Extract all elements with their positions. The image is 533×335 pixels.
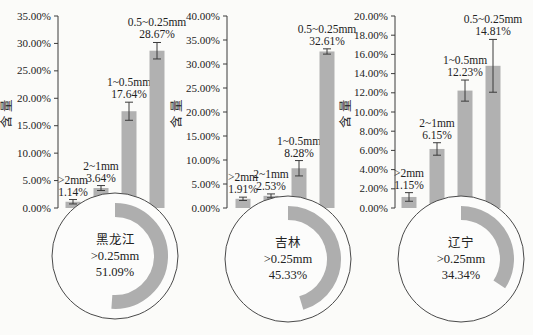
y-tick-label: 2.00% — [360, 182, 388, 194]
bar-category-label: 1~0.5mm — [277, 135, 321, 147]
y-axis-title: 含量 — [169, 96, 184, 128]
donut-region-label: 吉林 — [275, 236, 301, 250]
bar-category-label: 2~1mm — [253, 168, 289, 180]
y-tick-label: 30.00% — [186, 58, 220, 70]
bar-value-label: 3.64% — [86, 172, 116, 184]
y-tick-label: 25.00% — [17, 64, 51, 76]
bar-value-label: 1.15% — [394, 179, 424, 191]
bar-value-label: 17.64% — [111, 88, 147, 100]
bar-category-label: 2~1mm — [83, 160, 119, 172]
bar-category-label: 1~0.5mm — [107, 76, 151, 88]
chart-canvas: 35.00%30.00%25.00%20.00%15.00%10.00%5.00… — [0, 0, 533, 335]
y-axis-title: 含量 — [0, 96, 14, 128]
donut-region-label: 黑龙江 — [96, 233, 135, 247]
bar-0.5~0.25mm — [320, 51, 335, 208]
y-tick-label: 8.00% — [360, 125, 388, 137]
y-tick-label: 12.00% — [354, 86, 388, 98]
y-tick-label: 10.00% — [17, 147, 51, 159]
y-tick-label: 16.00% — [354, 48, 388, 60]
y-tick-label: 20.00% — [354, 10, 388, 22]
bar-value-label: 2.53% — [256, 180, 286, 192]
bar-value-label: 14.81% — [475, 25, 511, 37]
donut-region-label: 辽宁 — [448, 235, 474, 250]
donut-value-label: 45.33% — [269, 268, 308, 282]
y-tick-label: 20.00% — [186, 106, 220, 118]
y-axis-title: 含量 — [338, 96, 353, 128]
y-tick-label: 35.00% — [186, 34, 220, 46]
donut-category-label: >0.25mm — [91, 249, 140, 263]
y-tick-label: 14.00% — [354, 67, 388, 79]
donut-value-label: 51.09% — [96, 265, 135, 279]
bar-0.5~0.25mm — [150, 51, 165, 208]
donut-category-label: >0.25mm — [437, 252, 486, 266]
bar-value-label: 6.15% — [422, 129, 452, 141]
bar-1~0.5mm — [458, 91, 473, 208]
bar-category-label: 0.5~0.25mm — [298, 23, 357, 35]
y-tick-label: 4.00% — [360, 163, 388, 175]
y-tick-label: 15.00% — [186, 130, 220, 142]
y-tick-label: 40.00% — [186, 10, 220, 22]
y-tick-label: 20.00% — [17, 92, 51, 104]
bar-category-label: 0.5~0.25mm — [128, 16, 187, 28]
bar-category-label: >2mm — [394, 167, 424, 179]
y-tick-label: 30.00% — [17, 37, 51, 49]
y-tick-label: 0.00% — [360, 202, 388, 214]
bar-value-label: 1.91% — [228, 183, 258, 195]
donut-category-label: >0.25mm — [264, 252, 313, 266]
bar-value-label: 1.14% — [58, 186, 88, 198]
bar-value-label: 8.28% — [284, 147, 314, 159]
bar-value-label: 32.61% — [309, 35, 345, 47]
bar-category-label: 0.5~0.25mm — [464, 13, 523, 25]
bar-category-label: 1~0.5mm — [443, 54, 487, 66]
y-tick-label: 10.00% — [354, 106, 388, 118]
y-tick-label: 15.00% — [17, 119, 51, 131]
y-tick-label: 10.00% — [186, 154, 220, 166]
y-tick-label: 6.00% — [360, 144, 388, 156]
y-tick-label: 5.00% — [23, 174, 51, 186]
y-tick-label: 5.00% — [192, 178, 220, 190]
bar-value-label: 12.23% — [447, 66, 483, 78]
donut-value-label: 34.34% — [442, 268, 481, 282]
y-tick-label: 18.00% — [354, 29, 388, 41]
bar-category-label: >2mm — [58, 174, 88, 186]
y-tick-label: 0.00% — [23, 202, 51, 214]
y-tick-label: 35.00% — [17, 10, 51, 22]
figure-soil-aggregate-composition: 35.00%30.00%25.00%20.00%15.00%10.00%5.00… — [0, 0, 533, 335]
bar-value-label: 28.67% — [139, 28, 175, 40]
y-tick-label: 0.00% — [192, 202, 220, 214]
y-tick-label: 25.00% — [186, 82, 220, 94]
bar-category-label: 2~1mm — [419, 117, 455, 129]
